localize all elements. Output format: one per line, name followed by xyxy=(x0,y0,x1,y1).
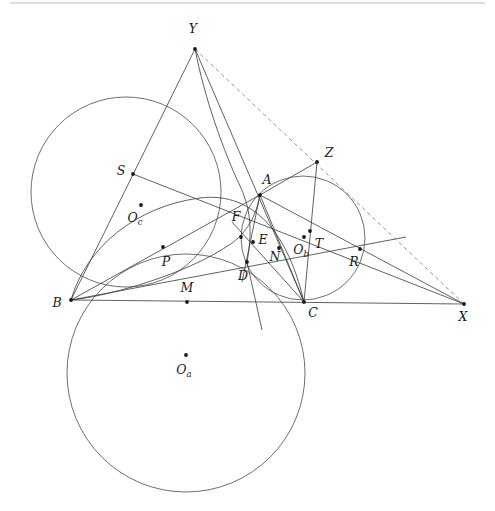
point-label-s: S xyxy=(117,163,126,178)
point-dot-z xyxy=(315,160,319,164)
point-label-m: M xyxy=(180,280,195,295)
point-dot-d xyxy=(245,260,249,264)
point-label-b: B xyxy=(51,295,61,310)
geometry-canvas: YSAZOcFEObTRPNDMBCXOa xyxy=(0,0,495,511)
segment-c-f xyxy=(232,222,304,302)
point-dot-ob xyxy=(302,235,306,239)
point-dot-c xyxy=(302,300,306,304)
point-label-c: C xyxy=(308,305,318,320)
point-label-r: R xyxy=(348,254,358,269)
point-label-oa: Oa xyxy=(176,362,191,379)
point-label-p: P xyxy=(161,254,171,269)
point-dot-e xyxy=(251,240,255,244)
point-dot-r xyxy=(358,247,362,251)
point-dot-f xyxy=(239,235,243,239)
point-dot-oa xyxy=(184,353,188,357)
point-label-oc: Oc xyxy=(127,210,142,227)
point-dot-x xyxy=(462,302,466,306)
segment-d-to-lower xyxy=(247,262,262,330)
point-dot-b xyxy=(69,298,73,302)
point-dot-a xyxy=(258,193,262,197)
point-label-x: X xyxy=(458,309,469,324)
point-label-f: F xyxy=(231,209,242,224)
point-dot-y xyxy=(193,47,197,51)
point-dot-t xyxy=(308,229,312,233)
point-dot-oc xyxy=(139,203,143,207)
segment-b-c xyxy=(71,300,464,304)
geometry-figure: YSAZOcFEObTRPNDMBCXOa xyxy=(0,0,495,511)
point-dot-s xyxy=(131,172,135,176)
point-label-y: Y xyxy=(189,21,199,36)
point-dot-p xyxy=(161,245,165,249)
vertex-dots-layer xyxy=(69,47,466,357)
point-label-ob: Ob xyxy=(293,242,309,259)
point-label-a: A xyxy=(261,172,271,187)
point-label-d: D xyxy=(237,268,248,283)
point-label-e: E xyxy=(257,232,267,247)
segment-y-c xyxy=(195,49,304,302)
point-label-z: Z xyxy=(324,145,334,160)
circle-oc xyxy=(31,97,221,287)
point-label-n: N xyxy=(269,249,282,264)
point-dot-m xyxy=(185,300,189,304)
